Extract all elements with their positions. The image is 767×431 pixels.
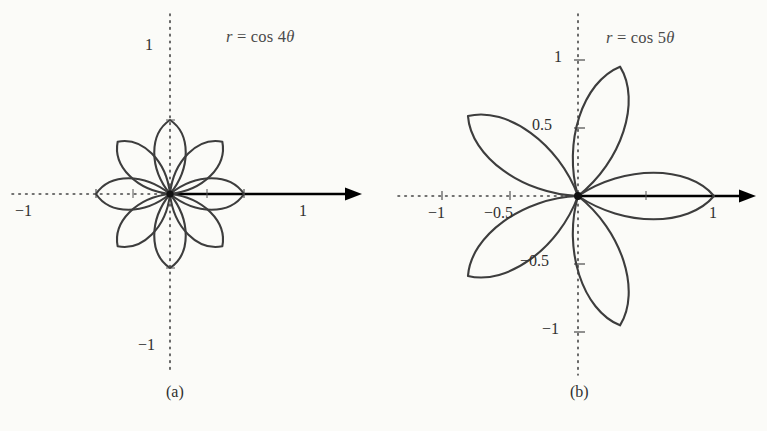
x-tick-label-1-b: 1 [709, 204, 717, 222]
x-axis-arrowhead-a [345, 188, 362, 201]
y-tick-label-minus1-a: −1 [138, 336, 155, 354]
x-tick-label-minus1-a: −1 [15, 202, 32, 220]
y-tick-label-05-b: 0.5 [532, 116, 552, 134]
equation-rhs-b: cos 5 [631, 28, 666, 47]
equation-label-a: r = cos 4θ [226, 27, 294, 47]
petal-b-72 [556, 59, 642, 203]
polar-rose-plot-a [0, 0, 384, 431]
equation-lhs-b: r [606, 28, 613, 47]
y-tick-label-minus05-b: −0.5 [520, 252, 549, 270]
y-tick-label-1-b: 1 [554, 48, 562, 66]
y-tick-label-minus1-b: −1 [542, 320, 559, 338]
x-tick-label-1-a: 1 [299, 202, 307, 220]
equation-lhs-a: r [226, 27, 233, 46]
origin-dot-b [574, 192, 582, 200]
origin-dot-a [166, 190, 173, 197]
equation-theta-a: θ [286, 27, 294, 46]
x-tick-label-minus05-b: −0.5 [484, 204, 513, 222]
y-tick-label-1-a: 1 [145, 36, 153, 54]
equation-eq-a: = [233, 27, 251, 46]
panel-caption-a: (a) [166, 383, 184, 401]
panel-b: r = cos 5θ 1 0.5 −0.5 −1 −1 −0.5 1 (b) [384, 0, 767, 431]
x-tick-label-minus1-b: −1 [428, 204, 445, 222]
equation-rhs-a: cos 4 [251, 27, 286, 46]
equation-label-b: r = cos 5θ [606, 28, 674, 48]
equation-eq-b: = [613, 28, 631, 47]
equation-theta-b: θ [666, 28, 674, 47]
figure-root: r = cos 4θ 1 −1 −1 1 (a) [0, 0, 767, 431]
panel-caption-b: (b) [570, 383, 589, 401]
x-axis-arrowhead-b [739, 190, 756, 203]
petal-b-288 [556, 189, 642, 333]
panel-a: r = cos 4θ 1 −1 −1 1 (a) [0, 0, 384, 431]
